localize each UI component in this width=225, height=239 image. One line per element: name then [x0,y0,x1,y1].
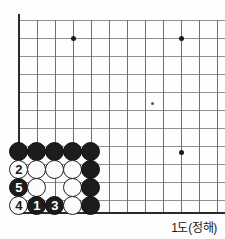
stone-black-b5[interactable] [27,142,46,161]
grid-line-horizontal-1 [19,38,225,39]
star-point-upper-right [179,36,184,41]
grid-line-vertical-6 [145,20,146,212]
stone-black-d5[interactable] [63,142,82,161]
stone-black-move-5[interactable]: 5 [9,178,28,197]
grid-line-vertical-9 [199,20,200,212]
grid-line-horizontal-0 [19,20,225,21]
grid-line-vertical-8 [181,20,182,212]
stone-black-e4[interactable] [81,160,100,179]
grid-line-vertical-7 [163,20,164,212]
stone-black-move-1[interactable]: 1 [27,196,46,215]
figure-caption: 1도(정해) [171,218,217,235]
go-board[interactable]: 25413 [0,0,225,225]
stone-white-d4[interactable] [63,160,82,179]
stone-white-b4[interactable] [27,160,46,179]
stone-black-e2[interactable] [81,196,100,215]
grid-line-horizontal-5 [19,110,225,111]
stone-black-c5[interactable] [45,142,64,161]
stone-white-c4[interactable] [45,160,64,179]
star-point-lower-right [179,150,184,155]
grid-line-horizontal-9 [19,182,225,183]
grid-line-horizontal-3 [19,74,225,75]
grid-line-horizontal-4 [19,92,225,93]
grid-line-vertical-4 [109,20,110,212]
stone-white-d3[interactable] [63,178,82,197]
grid-line-horizontal-6 [19,128,225,129]
stone-black-move-3[interactable]: 3 [45,196,64,215]
stone-white-d2[interactable] [63,196,82,215]
grid-line-vertical-5 [127,20,128,212]
stone-black-e3[interactable] [81,178,100,197]
stone-white-b3[interactable] [27,178,46,197]
stone-black-e5[interactable] [81,142,100,161]
stone-black-a5[interactable] [9,142,28,161]
grid-line-vertical-1 [55,20,56,212]
stone-white-move-4[interactable]: 4 [9,196,28,215]
star-point-upper-left [71,36,76,41]
star-point-center [151,102,154,105]
grid-line-vertical-10 [217,20,218,212]
go-problem-figure: 25413 1도(정해) [0,0,225,239]
stone-white-move-2[interactable]: 2 [9,160,28,179]
grid-line-horizontal-2 [19,56,225,57]
